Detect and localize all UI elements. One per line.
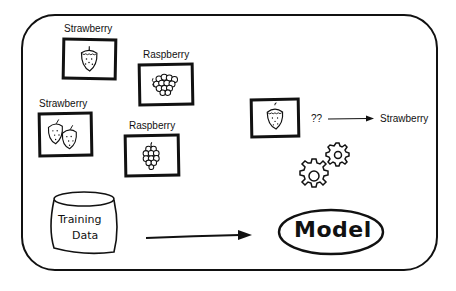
example-label-raspberry-2: Raspberry <box>129 120 175 131</box>
example-card-raspberry-1 <box>138 63 195 107</box>
model-label: Model <box>294 217 372 242</box>
training-data-label-line2: Data <box>72 229 98 242</box>
example-card-raspberry-2 <box>124 134 181 178</box>
example-card-strawberry-1 <box>62 38 118 81</box>
example-label-strawberry-1: Strawberry <box>64 23 112 34</box>
strawberry-icon <box>253 101 298 136</box>
example-card-strawberry-2 <box>38 112 94 158</box>
raspberry-icon <box>127 137 178 175</box>
gears-icon <box>290 141 360 201</box>
training-arrow-icon <box>144 227 254 243</box>
raspberry-icon <box>141 66 192 104</box>
strawberry-icon <box>65 41 115 78</box>
example-label-raspberry-1: Raspberry <box>143 49 189 60</box>
example-label-strawberry-2: Strawberry <box>39 98 87 109</box>
prediction-unknown-label: ?? <box>311 113 322 124</box>
strawberry-pair-icon <box>41 115 91 155</box>
prediction-arrow-icon <box>326 114 376 124</box>
training-data-label-line1: Training <box>58 213 101 226</box>
prediction-output-label: Strawberry <box>380 113 428 124</box>
prediction-input-card <box>250 98 301 139</box>
